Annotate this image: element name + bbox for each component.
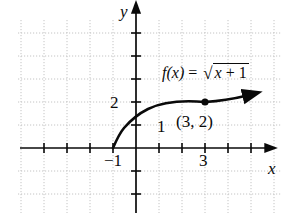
radicand-variable: x (215, 64, 222, 81)
x-tick-label-3: 3 (199, 152, 208, 169)
equals-sign: = (188, 64, 197, 81)
data-point-marker (201, 98, 208, 105)
graph-figure: y x 2 1 −1 3 (3, 2) f(x) = √x + 1 (0, 0, 290, 217)
plot-canvas (0, 0, 290, 217)
x-tick-label-minus-1: −1 (104, 152, 122, 169)
radical-sign-icon: √ (203, 64, 212, 83)
y-tick-label-2: 2 (110, 94, 119, 111)
grid-lines (18, 20, 282, 213)
y-tick-label-1: 1 (157, 118, 166, 135)
radical-expression: √x + 1 (201, 63, 248, 81)
radicand: x + 1 (213, 63, 249, 81)
point-annotation-label: (3, 2) (176, 113, 213, 130)
function-equation-label: f(x) = √x + 1 (162, 63, 249, 81)
function-name: f(x) (162, 64, 184, 81)
y-axis-label: y (120, 3, 128, 20)
radicand-rest: + 1 (222, 64, 247, 81)
x-axis-label: x (268, 160, 276, 177)
